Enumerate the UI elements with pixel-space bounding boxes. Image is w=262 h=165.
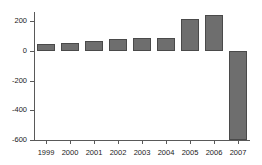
x-axis-tick bbox=[142, 140, 143, 144]
bar bbox=[181, 19, 200, 51]
y-axis-tick bbox=[30, 81, 34, 82]
bar bbox=[205, 15, 224, 51]
y-axis-line bbox=[34, 12, 35, 140]
y-axis-tick-label: -400 bbox=[0, 106, 27, 114]
x-axis-tick-label: 2003 bbox=[134, 148, 151, 157]
x-axis-tick-label: 2004 bbox=[158, 148, 175, 157]
bar bbox=[61, 43, 80, 51]
x-axis-tick-label: 2001 bbox=[86, 148, 103, 157]
x-axis-tick-label: 2007 bbox=[230, 148, 247, 157]
y-axis-tick bbox=[30, 51, 34, 52]
x-axis-tick-label: 1999 bbox=[38, 148, 55, 157]
y-axis-tick-label: -200 bbox=[0, 77, 27, 85]
x-axis-tick-label: 2006 bbox=[206, 148, 223, 157]
x-axis-tick bbox=[166, 140, 167, 144]
x-axis-tick bbox=[94, 140, 95, 144]
bar bbox=[85, 41, 104, 51]
x-axis-tick-label: 2005 bbox=[182, 148, 199, 157]
y-axis-tick bbox=[30, 110, 34, 111]
bar bbox=[133, 38, 152, 51]
x-axis-tick bbox=[46, 140, 47, 144]
x-axis-tick bbox=[238, 140, 239, 144]
x-axis-tick-label: 2000 bbox=[62, 148, 79, 157]
bar bbox=[157, 38, 176, 51]
bar bbox=[109, 39, 128, 51]
y-axis-tick bbox=[30, 140, 34, 141]
bar bbox=[229, 51, 248, 140]
y-axis-tick-label: 0 bbox=[0, 47, 27, 55]
y-axis-tick-label: -600 bbox=[0, 136, 27, 144]
bar-chart: 2000-200-400-600 19992000200120022003200… bbox=[0, 0, 262, 165]
x-axis-tick bbox=[214, 140, 215, 144]
x-axis-tick bbox=[118, 140, 119, 144]
bar bbox=[37, 44, 56, 51]
x-axis-tick bbox=[70, 140, 71, 144]
y-axis-tick bbox=[30, 21, 34, 22]
x-axis-tick-label: 2002 bbox=[110, 148, 127, 157]
y-axis-tick-label: 200 bbox=[0, 17, 27, 25]
x-axis-tick bbox=[190, 140, 191, 144]
